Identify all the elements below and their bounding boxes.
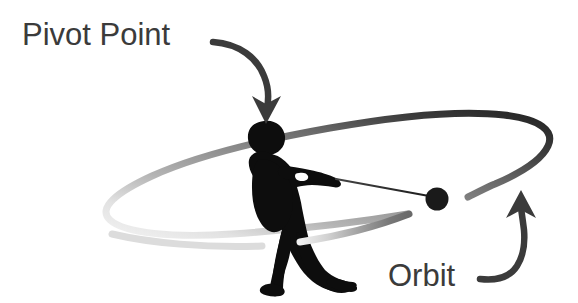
pivot-point-arrow-shaft: [213, 42, 268, 108]
diagram-canvas: Pivot Point Orbit: [0, 0, 578, 303]
orbit-arrow-shaft: [480, 208, 524, 279]
hammer: [336, 179, 449, 211]
pivot-point-arrow: [213, 42, 281, 124]
hammer-ball: [426, 188, 449, 211]
pivot-point-label: Pivot Point: [22, 17, 171, 52]
athlete-head: [248, 121, 285, 155]
orbit-label: Orbit: [388, 258, 456, 293]
orbit-arrow: [480, 190, 536, 279]
hammer-wire: [336, 179, 429, 196]
athlete-silhouette: [248, 121, 357, 297]
hammer-throw-diagram: Pivot Point Orbit: [0, 0, 578, 303]
orbit-ellipse-arc-main: [106, 113, 550, 235]
orbit-ellipse: [106, 113, 550, 235]
